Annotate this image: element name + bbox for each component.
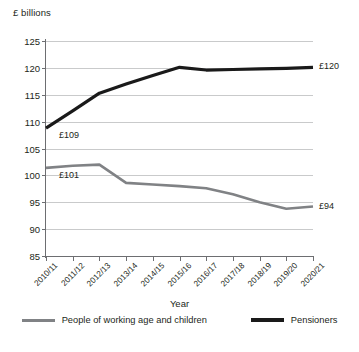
data-point-label: £101 bbox=[59, 170, 79, 180]
legend-label: Pensioners bbox=[291, 315, 338, 325]
y-axis-tick-label: 85 bbox=[29, 251, 40, 262]
legend-swatch-icon bbox=[22, 319, 55, 322]
y-axis-tick-label: 95 bbox=[29, 197, 40, 208]
x-axis-tick-labels: 2010/112011/122012/132013/142014/152015/… bbox=[46, 258, 313, 296]
plot-area: £101£94£109£120 bbox=[46, 41, 313, 256]
data-point-label: £94 bbox=[319, 201, 334, 211]
y-axis-title: £ billions bbox=[13, 7, 51, 18]
y-axis-tick-label: 100 bbox=[24, 170, 40, 181]
y-axis-tick-label: 110 bbox=[25, 116, 40, 127]
y-axis-tick-label: 125 bbox=[24, 36, 40, 47]
y-axis-tick-label: 115 bbox=[25, 89, 40, 100]
data-point-label: £120 bbox=[319, 61, 339, 71]
y-axis-tick-labels: 859095100105110115120125 bbox=[12, 41, 40, 256]
legend-item: People of working age and children bbox=[22, 315, 207, 325]
line-chart: £ billions 859095100105110115120125 £101… bbox=[0, 0, 359, 352]
x-axis-title: Year bbox=[0, 298, 359, 309]
y-axis-tick-label: 105 bbox=[24, 143, 40, 154]
x-axis-tick bbox=[313, 256, 314, 261]
legend-item: Pensioners bbox=[251, 315, 338, 325]
y-axis-tick-label: 120 bbox=[24, 62, 40, 73]
y-axis-tick-label: 90 bbox=[29, 224, 40, 235]
chart-legend: People of working age and childrenPensio… bbox=[0, 315, 359, 325]
legend-label: People of working age and children bbox=[62, 315, 207, 325]
legend-swatch-icon bbox=[251, 318, 284, 322]
data-point-labels: £101£94£109£120 bbox=[46, 41, 313, 256]
data-point-label: £109 bbox=[59, 130, 79, 140]
